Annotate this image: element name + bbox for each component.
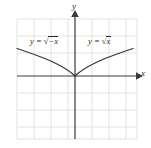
equation-right-lhs: y = — [88, 36, 100, 46]
x-axis — [17, 72, 143, 80]
y-axis-label: y — [72, 2, 76, 11]
square-root-graph-figure: y = √−x y = √x y x — [0, 0, 151, 148]
x-axis-label: x — [141, 69, 145, 78]
equation-left-lhs: y = — [30, 36, 42, 46]
radical-left: √−x — [44, 36, 59, 46]
radicand-left: −x — [48, 36, 59, 46]
equation-label-sqrt-x: y = √x — [88, 36, 111, 46]
radical-right: √x — [102, 36, 111, 46]
equation-label-sqrt-negative-x: y = √−x — [30, 36, 58, 46]
y-axis — [71, 10, 79, 139]
radicand-right: x — [106, 36, 111, 46]
coordinate-plane — [0, 0, 151, 148]
